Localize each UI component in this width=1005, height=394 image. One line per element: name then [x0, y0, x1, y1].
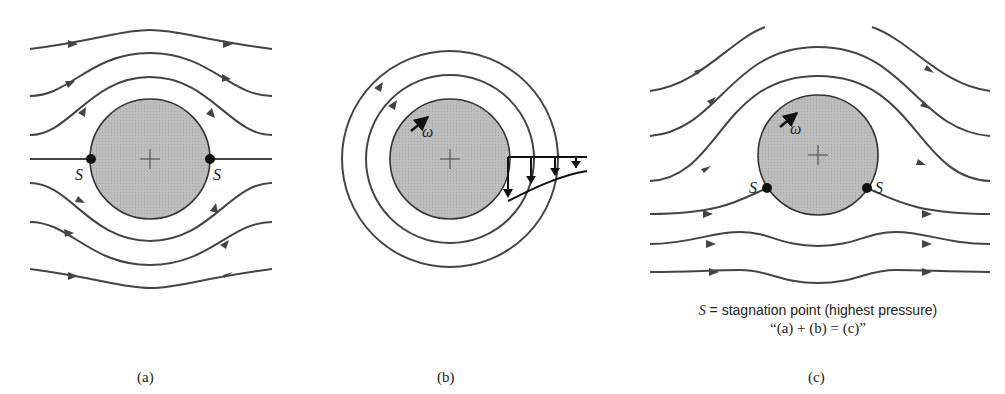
stagnation-point	[862, 183, 872, 193]
caption-text: = stagnation point (highest pressure)	[706, 302, 938, 318]
stagnation-label: S	[75, 166, 83, 183]
stagnation-label: S	[875, 179, 883, 196]
caption-line-1: S = stagnation point (highest pressure)	[648, 302, 988, 319]
omega-label: ω	[790, 120, 801, 137]
omega-label: ω	[422, 123, 433, 140]
panel-b	[342, 51, 587, 267]
stagnation-label: S	[749, 179, 757, 196]
panel-label-b: (b)	[437, 369, 455, 386]
symbol-s: S	[699, 303, 706, 318]
stagnation-point	[86, 154, 96, 164]
panel-label-c: (c)	[808, 369, 825, 386]
caption-line-2: “(a) + (b) = (c)”	[648, 320, 988, 337]
panel-a	[30, 30, 272, 288]
stagnation-point	[205, 154, 215, 164]
streamline	[650, 27, 765, 91]
stagnation-label: S	[213, 166, 221, 183]
panel-c	[650, 27, 990, 283]
panel-label-a: (a)	[137, 369, 154, 386]
stagnation-point	[762, 183, 772, 193]
streamline	[30, 30, 272, 49]
